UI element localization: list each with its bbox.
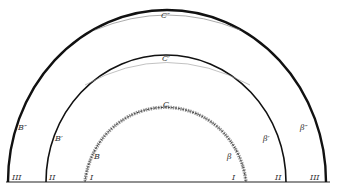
label-beta-prime: β′ <box>262 134 270 143</box>
label-II-right: II <box>274 173 282 182</box>
label-b: B <box>93 152 100 161</box>
inner-arc-hatch <box>85 107 246 182</box>
label-c-double-prime: C″ <box>161 11 170 20</box>
inner-arc <box>85 107 246 182</box>
outer-arc <box>8 10 326 182</box>
label-c-prime: C′ <box>162 54 170 63</box>
label-beta-double-prime: β″ <box>299 123 308 132</box>
label-c: C <box>163 100 169 109</box>
label-I-right: I <box>231 173 236 182</box>
label-I-left: I <box>89 173 94 182</box>
label-III-right: III <box>309 173 320 182</box>
label-b-prime: B′ <box>54 134 63 143</box>
middle-arc <box>46 55 286 182</box>
middle-arc-crest <box>85 63 250 86</box>
outer-arc-gap <box>95 19 240 33</box>
label-beta: β <box>226 152 232 161</box>
label-II-left: II <box>48 173 56 182</box>
concentric-arcs-diagram: C″ C′ C B″ β″ B′ β′ B β III III II II I … <box>0 0 337 188</box>
label-III-left: III <box>11 173 22 182</box>
label-b-double-prime: B″ <box>17 123 27 132</box>
